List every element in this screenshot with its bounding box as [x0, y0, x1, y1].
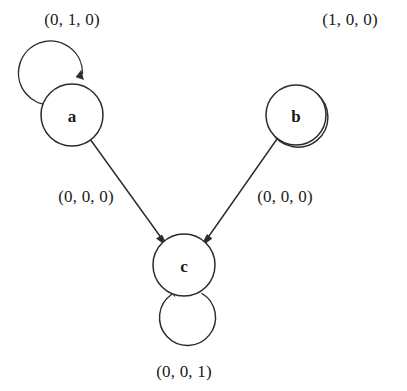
node-b-label: b [291, 107, 300, 126]
node-a-label: a [68, 107, 77, 126]
self-loop-c[interactable] [160, 289, 216, 346]
self-loop-c-arc [160, 294, 216, 346]
edge-b-to-c-label: (0, 0, 0) [257, 187, 313, 206]
node-a[interactable]: a [41, 84, 103, 146]
node-c[interactable]: c [153, 234, 215, 296]
self-loop-b-label: (1, 0, 0) [322, 10, 378, 29]
state-transition-diagram: a b c (0, 1, 0) (1, 0, 0) (0, 0, 1) (0, … [0, 0, 407, 391]
self-loop-c-label: (0, 0, 1) [156, 362, 212, 381]
self-loop-a-label: (0, 1, 0) [44, 10, 100, 29]
node-c-label: c [180, 257, 188, 276]
edge-a-to-c-label: (0, 0, 0) [58, 187, 114, 206]
node-b[interactable]: b [266, 85, 326, 145]
diagram-canvas: a b c (0, 1, 0) (1, 0, 0) (0, 0, 1) (0, … [0, 0, 407, 391]
